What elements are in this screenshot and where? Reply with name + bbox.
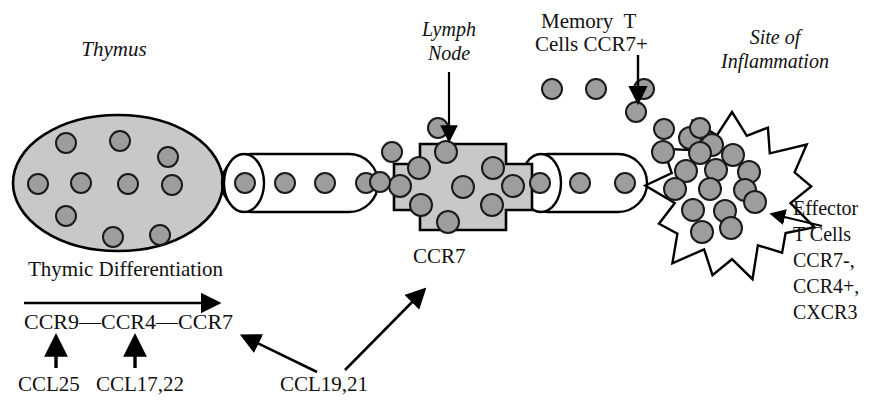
t-cell [275, 173, 295, 193]
ccl17-22-label: CCL17,22 [96, 373, 184, 397]
t-cell [699, 178, 721, 200]
t-cell [428, 118, 448, 138]
effector-label-line1: Effector [793, 197, 858, 220]
effector-label-line3: CCR7-, [793, 249, 855, 272]
t-cell [570, 173, 590, 193]
inflammation-t-cells [652, 127, 766, 243]
receptor-chain-label: CCR9—CCR4—CCR7 [24, 310, 233, 335]
t-cell [435, 141, 457, 163]
memory-t-cells-label-line2: Cells CCR7+ [535, 33, 648, 57]
t-cell [452, 176, 474, 198]
ccl19-21-left-arrow [243, 336, 317, 372]
t-cell [482, 157, 504, 179]
inflammation-label-line2: Inflammation [690, 50, 860, 73]
lymph-node-label-line1: Lymph [394, 18, 504, 41]
t-cell [542, 79, 562, 99]
ccr7-lymph-node-label: CCR7 [413, 245, 466, 269]
t-cell [720, 217, 742, 239]
lymph-node-label-line2: Node [394, 42, 504, 65]
t-cell [481, 194, 503, 216]
effector-label-line4: CCR4+, [793, 275, 859, 298]
t-cell [382, 142, 402, 162]
t-cell [71, 173, 91, 193]
t-cell [315, 173, 335, 193]
t-cell [103, 227, 123, 247]
t-cell [437, 211, 459, 233]
t-cell [690, 118, 710, 138]
t-cell [235, 173, 255, 193]
t-cell [664, 178, 686, 200]
t-cell [56, 206, 76, 226]
t-cell [110, 131, 130, 151]
t-cell [158, 147, 178, 167]
t-cell [691, 221, 713, 243]
t-cell [689, 142, 711, 164]
t-cell [654, 119, 674, 139]
inflammation-label-line1: Site of [690, 26, 860, 49]
memory-t-cells-label-line1: Memory T [541, 10, 636, 34]
effector-label-line5: CXCR3 [793, 301, 857, 324]
t-cell [150, 225, 170, 245]
thymic-differentiation-label: Thymic Differentiation [28, 258, 223, 282]
effector-label-line2: T Cells [793, 223, 851, 246]
t-cell [682, 199, 704, 221]
t-cell [502, 175, 524, 197]
t-cell [56, 133, 76, 153]
t-cell [389, 175, 411, 197]
t-cell [586, 79, 606, 99]
ccl25-label: CCL25 [18, 373, 80, 397]
t-cell [626, 102, 646, 122]
t-cell [744, 191, 766, 213]
t-cell [615, 173, 635, 193]
ccl19-21-label: CCL19,21 [280, 373, 368, 397]
t-cell [370, 172, 390, 192]
t-cell [408, 157, 430, 179]
t-cell [118, 174, 138, 194]
t-cell [410, 194, 432, 216]
t-cell [28, 174, 48, 194]
vessel-right-t-cells [530, 173, 635, 193]
ccl19-21-right-arrow [345, 290, 424, 370]
t-cell [652, 141, 674, 163]
trafficking-diagram: Thymus Lymph Node Memory T Cells CCR7+ S… [0, 0, 893, 418]
t-cell [162, 175, 182, 195]
t-cell [530, 173, 550, 193]
thymus-label: Thymus [44, 38, 184, 62]
